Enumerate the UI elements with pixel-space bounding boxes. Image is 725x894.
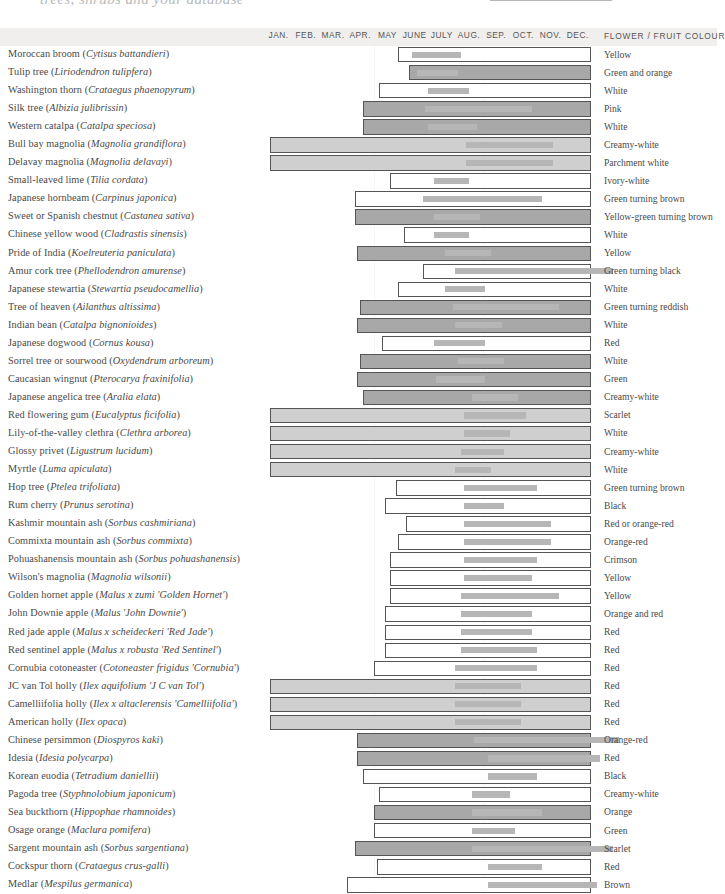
flowering-time-bar[interactable]: [464, 503, 505, 509]
flowering-time-bar[interactable]: [464, 485, 537, 491]
chart-row[interactable]: Red flowering gum (Eucalyptus ficifolia)…: [0, 407, 717, 425]
flowering-time-bar[interactable]: [464, 412, 527, 418]
flowering-time-bar[interactable]: [461, 449, 505, 455]
chart-row[interactable]: Pride of India (Koelreuteria paniculata)…: [0, 245, 717, 263]
chart-row[interactable]: Chinese persimmon (Diospyros kaki)Orange…: [0, 732, 717, 750]
chart-row[interactable]: Red jade apple (Malus x scheideckeri 'Re…: [0, 624, 717, 642]
chart-row[interactable]: Wilson's magnolia (Magnolia wilsonii)Yel…: [0, 569, 717, 587]
chart-row[interactable]: Delavay magnolia (Magnolia delavayi)Parc…: [0, 154, 717, 172]
flowering-time-bar[interactable]: [488, 864, 542, 870]
chart-row[interactable]: Camelliifolia holly (Ilex x altaclerensi…: [0, 696, 717, 714]
fruiting-period-bar[interactable]: [398, 282, 591, 297]
fruiting-period-bar[interactable]: [379, 83, 591, 98]
flowering-time-bar[interactable]: [434, 232, 469, 238]
chart-row[interactable]: Korean euodia (Tetradium daniellii)Black: [0, 768, 717, 786]
chart-row[interactable]: Myrtle (Luma apiculata)White: [0, 461, 717, 479]
flowering-time-bar[interactable]: [461, 593, 559, 599]
flowering-time-bar[interactable]: [412, 52, 461, 58]
flowering-time-bar[interactable]: [434, 214, 480, 220]
chart-row[interactable]: Amur cork tree (Phellodendron amurense)G…: [0, 263, 717, 281]
chart-row[interactable]: Hop tree (Ptelea trifoliata)Green turnin…: [0, 479, 717, 497]
chart-row[interactable]: Japanese hornbeam (Carpinus japonica)Gre…: [0, 190, 717, 208]
chart-row[interactable]: Silk tree (Albizia julibrissin)Pink: [0, 100, 717, 118]
flowering-time-bar[interactable]: [455, 701, 520, 707]
flowering-time-bar[interactable]: [488, 773, 537, 779]
flowering-time-bar[interactable]: [466, 142, 553, 148]
chart-row[interactable]: Indian bean (Catalpa bignonioides)White: [0, 317, 717, 335]
flowering-time-bar[interactable]: [417, 70, 458, 76]
chart-row[interactable]: Lily-of-the-valley clethra (Clethra arbo…: [0, 425, 717, 443]
flowering-time-bar[interactable]: [434, 178, 469, 184]
fruiting-period-bar[interactable]: [270, 444, 591, 459]
flowering-time-bar[interactable]: [488, 882, 597, 888]
flowering-time-bar[interactable]: [445, 286, 486, 292]
fruiting-period-bar[interactable]: [382, 336, 591, 351]
fruiting-period-bar[interactable]: [363, 769, 591, 784]
flowering-time-bar[interactable]: [472, 791, 510, 797]
flowering-time-bar[interactable]: [428, 88, 469, 94]
flowering-time-bar[interactable]: [455, 665, 537, 671]
chart-row[interactable]: Kashmir mountain ash (Sorbus cashmiriana…: [0, 515, 717, 533]
chart-row[interactable]: Sweet or Spanish chestnut (Castanea sati…: [0, 208, 717, 226]
fruiting-period-bar[interactable]: [270, 715, 591, 730]
chart-row[interactable]: Sea buckthorn (Hippophae rhamnoides)Oran…: [0, 804, 717, 822]
flowering-time-bar[interactable]: [464, 521, 551, 527]
flowering-time-bar[interactable]: [461, 629, 532, 635]
chart-row[interactable]: Pohuashanensis mountain ash (Sorbus pohu…: [0, 551, 717, 569]
flowering-time-bar[interactable]: [428, 124, 477, 130]
fruiting-period-bar[interactable]: [270, 462, 591, 477]
chart-row[interactable]: Idesia (Idesia polycarpa)Red: [0, 750, 717, 768]
chart-row[interactable]: Rum cherry (Prunus serotina)Black: [0, 497, 717, 515]
chart-row[interactable]: Chinese yellow wood (Cladrastis sinensis…: [0, 226, 717, 244]
fruiting-period-bar[interactable]: [390, 173, 591, 188]
flowering-time-bar[interactable]: [464, 575, 532, 581]
flowering-time-bar[interactable]: [461, 647, 537, 653]
chart-row[interactable]: Commixta mountain ash (Sorbus commixta)O…: [0, 533, 717, 551]
flowering-time-bar[interactable]: [472, 828, 516, 834]
chart-row[interactable]: Japanese stewartia (Stewartia pseudocame…: [0, 281, 717, 299]
fruiting-period-bar[interactable]: [363, 119, 591, 134]
chart-row[interactable]: Cockspur thorn (Crataegus crus-galli)Red: [0, 858, 717, 876]
flowering-time-bar[interactable]: [455, 322, 501, 328]
fruiting-period-bar[interactable]: [270, 426, 591, 441]
flowering-time-bar[interactable]: [461, 611, 532, 617]
flowering-time-bar[interactable]: [425, 106, 531, 112]
flowering-time-bar[interactable]: [474, 737, 618, 743]
flowering-time-bar[interactable]: [458, 358, 504, 364]
fruiting-period-bar[interactable]: [377, 859, 592, 874]
chart-row[interactable]: Golden hornet apple (Malus x zumi 'Golde…: [0, 587, 717, 605]
flowering-time-bar[interactable]: [445, 250, 491, 256]
flowering-time-bar[interactable]: [455, 467, 490, 473]
chart-row[interactable]: American holly (Ilex opaca)Red: [0, 714, 717, 732]
flowering-time-bar[interactable]: [436, 376, 485, 382]
flowering-time-bar[interactable]: [464, 557, 537, 563]
fruiting-period-bar[interactable]: [270, 697, 591, 712]
flowering-time-bar[interactable]: [464, 430, 510, 436]
chart-row[interactable]: Washington thorn (Crataegus phaenopyrum)…: [0, 82, 717, 100]
flowering-time-bar[interactable]: [472, 394, 518, 400]
chart-row[interactable]: JC van Tol holly (Ilex aquifolium 'J C v…: [0, 678, 717, 696]
flowering-time-bar[interactable]: [434, 340, 486, 346]
chart-row[interactable]: Red sentinel apple (Malus x robusta 'Red…: [0, 642, 717, 660]
fruiting-period-bar[interactable]: [270, 679, 591, 694]
chart-row[interactable]: Medlar (Mespilus germanica)Brown: [0, 876, 717, 894]
chart-row[interactable]: John Downie apple (Malus 'John Downie')O…: [0, 605, 717, 623]
chart-row[interactable]: Glossy privet (Ligustrum lucidum)Creamy-…: [0, 443, 717, 461]
flowering-time-bar[interactable]: [423, 196, 543, 202]
chart-row[interactable]: Caucasian wingnut (Pterocarya fraxinifol…: [0, 371, 717, 389]
fruiting-period-bar[interactable]: [270, 408, 591, 423]
flowering-time-bar[interactable]: [455, 268, 613, 274]
flowering-time-bar[interactable]: [466, 160, 553, 166]
chart-row[interactable]: Sargent mountain ash (Sorbus sargentiana…: [0, 840, 717, 858]
chart-row[interactable]: Japanese angelica tree (Aralia elata)Cre…: [0, 389, 717, 407]
chart-row[interactable]: Moroccan broom (Cytisus battandieri)Yell…: [0, 46, 717, 64]
fruiting-period-bar[interactable]: [404, 227, 592, 242]
flowering-time-bar[interactable]: [453, 304, 559, 310]
flowering-time-bar[interactable]: [472, 846, 613, 852]
chart-row[interactable]: Western catalpa (Catalpa speciosa)White: [0, 118, 717, 136]
chart-row[interactable]: Cornubia cotoneaster (Cotoneaster frigid…: [0, 660, 717, 678]
chart-row[interactable]: Sorrel tree or sourwood (Oxydendrum arbo…: [0, 353, 717, 371]
flowering-time-bar[interactable]: [455, 683, 520, 689]
chart-row[interactable]: Bull bay magnolia (Magnolia grandiflora)…: [0, 136, 717, 154]
chart-row[interactable]: Tulip tree (Liriodendron tulipfera)Green…: [0, 64, 717, 82]
